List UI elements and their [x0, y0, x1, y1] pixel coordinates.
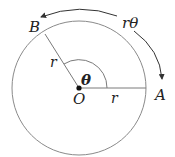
arc-length-diagram: B rθ r θ O r A [0, 0, 175, 157]
label-radius-oa: r [111, 90, 119, 106]
label-radius-ob: r [50, 54, 58, 70]
label-arc-length: rθ [122, 14, 138, 32]
label-angle: θ [81, 71, 91, 89]
arc-arrow-left [41, 9, 117, 17]
label-point-b: B [28, 18, 40, 36]
label-point-a: A [153, 86, 166, 104]
arc-arrow-down [134, 31, 162, 79]
label-center: O [73, 90, 85, 108]
